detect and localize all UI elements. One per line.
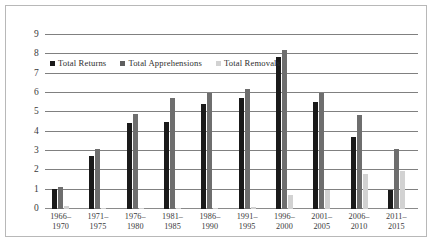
bar [89,156,94,209]
bar [127,123,132,209]
bar [313,102,318,209]
bar [52,189,57,209]
y-tick-label: 6 [15,88,39,98]
bar [357,115,362,209]
bar-group [388,35,405,209]
x-tick-line: 2011– [366,212,426,222]
bar [276,57,281,209]
bar [176,208,181,209]
chart-frame: 9876543210 1966–19701971–19751976–198019… [5,5,427,237]
bar [245,89,250,209]
y-tick-label: 2 [15,166,39,176]
y-tick-label: 8 [15,50,39,60]
legend-item[interactable]: Total Returns [50,59,106,68]
bar [207,93,212,209]
bar [95,149,100,209]
bar [351,137,356,210]
legend-item[interactable]: Total Apprehensions [120,59,202,68]
bar [325,190,330,209]
bar [282,50,287,209]
y-tick-label: 1 [15,185,39,195]
y-tick-label: 5 [15,108,39,118]
bar [58,187,63,209]
chart-legend: Total ReturnsTotal ApprehensionsTotal Re… [50,59,280,68]
y-axis-tick-labels: 9876543210 [11,35,45,209]
bar [164,122,169,209]
x-axis-tick-labels: 1966–19701971–19751976–19801981–19851986… [45,212,418,240]
bar [363,174,368,209]
bar [288,195,293,209]
legend-swatch-icon [50,61,55,66]
bar-group [313,35,330,209]
bar [64,206,69,209]
x-tick-line: 2015 [366,222,426,232]
chart-figure: 9876543210 1966–19701971–19751976–198019… [0,0,434,246]
bar [101,208,106,209]
bar [400,171,405,209]
legend-swatch-icon [120,61,125,66]
bar [201,104,206,209]
legend-label: Total Returns [58,59,106,68]
bar [319,93,324,209]
bar [394,149,399,209]
bar [239,98,244,209]
bar [133,114,138,209]
legend-label: Total Removals [224,59,280,68]
bar-group [351,35,368,209]
legend-swatch-icon [216,61,221,66]
y-tick-label: 4 [15,127,39,137]
bar [388,190,393,209]
y-tick-label: 7 [15,69,39,79]
y-tick-label: 9 [15,30,39,40]
x-tick-label: 2011–2015 [366,212,426,232]
bar [213,208,218,209]
bar [170,98,175,209]
legend-label: Total Apprehensions [128,59,202,68]
legend-item[interactable]: Total Removals [216,59,280,68]
bar [251,207,256,210]
y-tick-label: 3 [15,146,39,156]
bar [139,208,144,209]
